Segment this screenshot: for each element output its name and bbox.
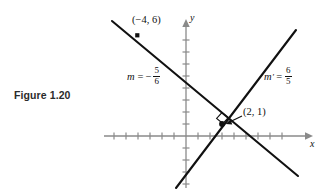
- slope-left-denominator: 6: [153, 77, 160, 87]
- slope-left-equals: =: [137, 71, 143, 82]
- line-slope-negative-five-sixths: [112, 21, 298, 176]
- slope-label-right: m ′ = 6 5: [264, 66, 292, 87]
- slope-right-fraction: 6 5: [285, 66, 292, 86]
- slope-label-left: m = − 5 6: [127, 66, 160, 87]
- point-label-2-1: (2, 1): [243, 106, 266, 117]
- slope-left-numerator: 5: [153, 66, 160, 76]
- point-marker-neg4-6: [135, 33, 139, 37]
- slope-left-fraction: 5 6: [153, 66, 160, 86]
- slope-right-numerator: 6: [285, 66, 292, 76]
- coordinate-plane-graph: [0, 0, 327, 195]
- slope-right-equals: =: [276, 71, 282, 82]
- line-slope-six-fifths: [176, 30, 296, 188]
- slope-right-variable: m: [264, 71, 272, 82]
- y-axis-arrowhead: [182, 19, 189, 27]
- slope-left-sign: −: [146, 71, 152, 82]
- point-marker-intersection: [219, 121, 225, 127]
- x-axis-label: x: [310, 138, 314, 149]
- slope-left-variable: m: [127, 71, 135, 82]
- point-label-neg4-6: (−4, 6): [132, 14, 161, 25]
- slope-right-denominator: 5: [285, 77, 292, 87]
- y-axis-label: y: [190, 12, 194, 23]
